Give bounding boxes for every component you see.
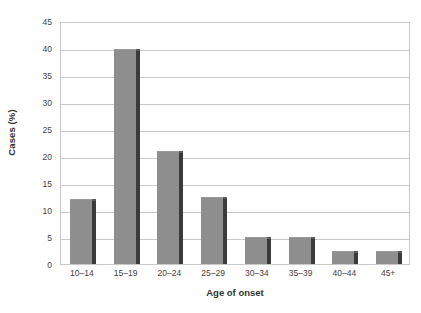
y-axis-tick-label: 15 [43,179,52,189]
y-axis-tick-labels: 051015202530354045 [24,22,56,265]
y-axis-title-label: Cases (%) [6,109,17,155]
bar-group [149,23,193,264]
bar-shadow [179,153,183,264]
x-axis-tick-label: 20–24 [158,268,182,278]
bar-group [236,23,280,264]
bar[interactable] [70,199,92,264]
bar-shadow-top [136,49,140,51]
bar-group [61,23,105,264]
bar-chart-figure: Cases (%) 051015202530354045 10–1415–192… [0,0,421,313]
bar[interactable] [376,251,398,265]
bar-shadow [223,199,227,265]
x-axis-tick-label: 40–44 [333,268,357,278]
bar[interactable] [201,197,223,265]
bar-shadow-top [179,151,183,153]
bar-shadow [136,51,140,264]
y-axis-tick-label: 0 [47,260,52,270]
bar-shadow [92,201,96,264]
y-axis-tick-label: 5 [47,233,52,243]
y-axis-tick-label: 45 [43,17,52,27]
bar[interactable] [245,237,267,264]
x-axis-tick-labels: 10–1415–1920–2425–2930–3435–3940–4445+ [60,268,410,284]
bar-shadow-top [354,251,358,253]
bar-shadow-top [311,237,315,239]
bar[interactable] [157,151,179,264]
y-axis-title: Cases (%) [0,0,22,265]
bar-shadow-top [92,199,96,201]
bar[interactable] [332,251,354,265]
x-axis-tick-label: 15–19 [114,268,138,278]
x-axis-title: Age of onset [60,287,410,298]
bar[interactable] [289,237,311,264]
bar-shadow [311,239,315,264]
x-axis-tick-label: 25–29 [201,268,225,278]
y-axis-tick-label: 25 [43,125,52,135]
bar-group [324,23,368,264]
y-axis-tick-label: 20 [43,152,52,162]
bar-shadow [267,239,271,264]
bar-shadow-top [267,237,271,239]
y-axis-tick-label: 30 [43,98,52,108]
bar-group [192,23,236,264]
plot-area [60,22,410,265]
y-axis-tick-label: 35 [43,71,52,81]
x-axis-tick-label: 45+ [381,268,395,278]
bar-group [280,23,324,264]
bar-group [367,23,410,264]
bar-group [105,23,149,264]
y-axis-tick-label: 10 [43,206,52,216]
bar-shadow [398,253,402,265]
bar-shadow [354,253,358,265]
y-axis-tick-label: 40 [43,44,52,54]
bar-shadow-top [398,251,402,253]
bar-shadow-top [223,197,227,199]
bar[interactable] [114,49,136,264]
bars-layer [61,23,409,264]
x-axis-tick-label: 30–34 [245,268,269,278]
x-axis-tick-label: 35–39 [289,268,313,278]
x-axis-tick-label: 10–14 [70,268,94,278]
